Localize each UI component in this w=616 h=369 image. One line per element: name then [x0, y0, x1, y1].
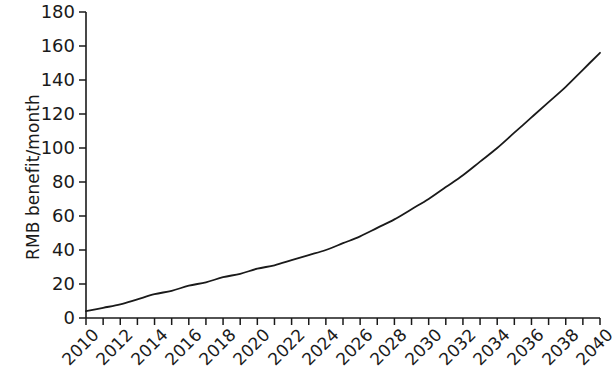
x-axis-tick-label: 2030: [402, 326, 445, 369]
x-axis-tick-label: 2032: [436, 326, 479, 369]
x-axis-tick-label: 2010: [59, 326, 102, 369]
x-axis-tick-label: 2020: [231, 326, 274, 369]
x-axis-tick-label: 2034: [471, 326, 514, 369]
x-axis-ticks: [86, 318, 600, 325]
x-axis-tick-label: 2012: [94, 326, 137, 369]
x-axis-tick-label: 2028: [368, 326, 411, 369]
x-axis-tick-label: 2040: [573, 326, 616, 369]
x-axis: [86, 318, 600, 325]
x-axis-tick-label: 2022: [265, 326, 308, 369]
x-axis-tick-label: 2018: [196, 326, 239, 369]
x-axis-tick-label: 2014: [128, 326, 171, 369]
x-axis-tick-label: 2038: [539, 326, 582, 369]
y-axis: [79, 12, 86, 318]
x-axis-tick-label: 2024: [299, 326, 342, 369]
x-axis-tick-labels: 2010201220142016201820202022202420262028…: [0, 326, 611, 369]
x-axis-tick-label: 2026: [334, 326, 377, 369]
x-axis-tick-label: 2016: [162, 326, 205, 369]
series-line-rmb-benefit: [86, 53, 600, 311]
y-axis-ticks: [79, 12, 86, 318]
x-axis-tick-label: 2036: [505, 326, 548, 369]
